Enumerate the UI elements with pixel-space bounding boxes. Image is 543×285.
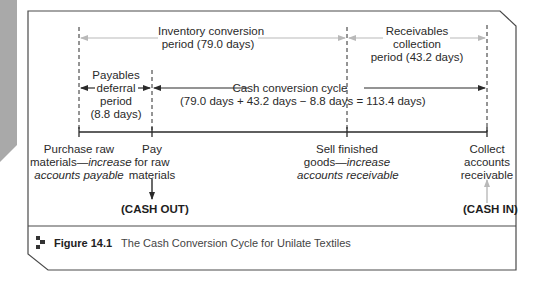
ccc-label: Cash conversion cycle (79.0 days + 43.2 … (180, 82, 400, 108)
event-purchase: Purchase raw materials—increase accounts… (30, 143, 128, 182)
pay-line2: for raw (124, 156, 180, 169)
purchase-line1: Purchase raw (30, 143, 128, 156)
receivables-period-label: Receivables collection period (43.2 days… (365, 25, 469, 64)
figure-number: Figure 14.1 (54, 237, 112, 249)
ccc-line2: (79.0 days + 43.2 days − 8.8 days = 113.… (180, 95, 400, 108)
sell-line2b: increase (347, 156, 390, 168)
pay-line3: materials (124, 169, 180, 182)
purchase-line2a: materials— (30, 156, 88, 168)
inventory-period-label: Inventory conversion period (79.0 days) (158, 25, 258, 51)
figure-icon (36, 236, 48, 250)
collect-line1: Collect (457, 143, 517, 156)
receivables-line2: collection (365, 38, 469, 51)
event-pay: Pay for raw materials (124, 143, 180, 182)
sell-line3: accounts receivable (297, 169, 399, 181)
collect-line3: receivable (457, 169, 517, 182)
receivables-line3: period (43.2 days) (365, 51, 469, 64)
purchase-line2: materials—increase (30, 156, 128, 169)
payables-line1: Payables (84, 69, 148, 82)
sell-line1: Sell finished (297, 143, 397, 156)
pay-line1: Pay (124, 143, 180, 156)
event-sell: Sell finished goods—increase accounts re… (297, 143, 397, 182)
figure-title: The Cash Conversion Cycle for Unilate Te… (121, 237, 351, 249)
collect-line2: accounts (457, 156, 517, 169)
purchase-line3: accounts payable (34, 169, 124, 181)
payables-period-label: Payables deferral period (8.8 days) (84, 69, 148, 121)
payables-line2: deferral (84, 82, 148, 95)
payables-line3: period (84, 95, 148, 108)
event-collect: Collect accounts receivable (457, 143, 517, 182)
cash-out-label: (CASH OUT) (121, 203, 189, 215)
receivables-line1: Receivables (365, 25, 469, 38)
payables-line4: (8.8 days) (84, 108, 148, 121)
figure-caption: Figure 14.1 The Cash Conversion Cycle fo… (36, 236, 351, 250)
ccc-line1: Cash conversion cycle (180, 82, 400, 95)
sell-line2a: goods— (304, 156, 347, 168)
inventory-line2: period (79.0 days) (158, 38, 258, 51)
cash-in-label: (CASH IN) (463, 203, 518, 215)
sell-line2: goods—increase (297, 156, 397, 169)
inventory-line1: Inventory conversion (158, 25, 258, 38)
